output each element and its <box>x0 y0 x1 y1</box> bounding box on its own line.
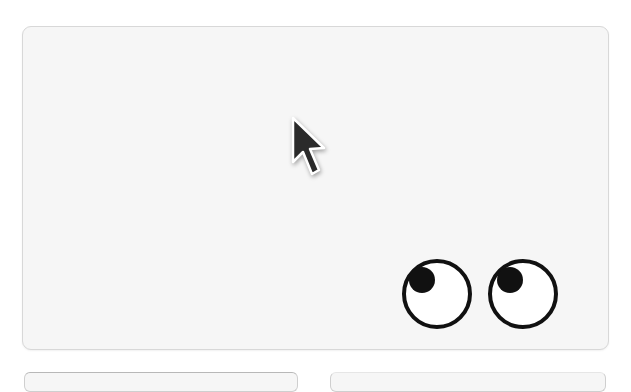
bottom-card-left <box>24 372 298 392</box>
mouse-cursor-icon <box>286 112 330 184</box>
googly-eyes-icon <box>400 258 562 332</box>
bottom-card-right <box>330 372 606 392</box>
left-eye-icon <box>404 261 470 327</box>
right-eye-icon <box>490 261 556 327</box>
